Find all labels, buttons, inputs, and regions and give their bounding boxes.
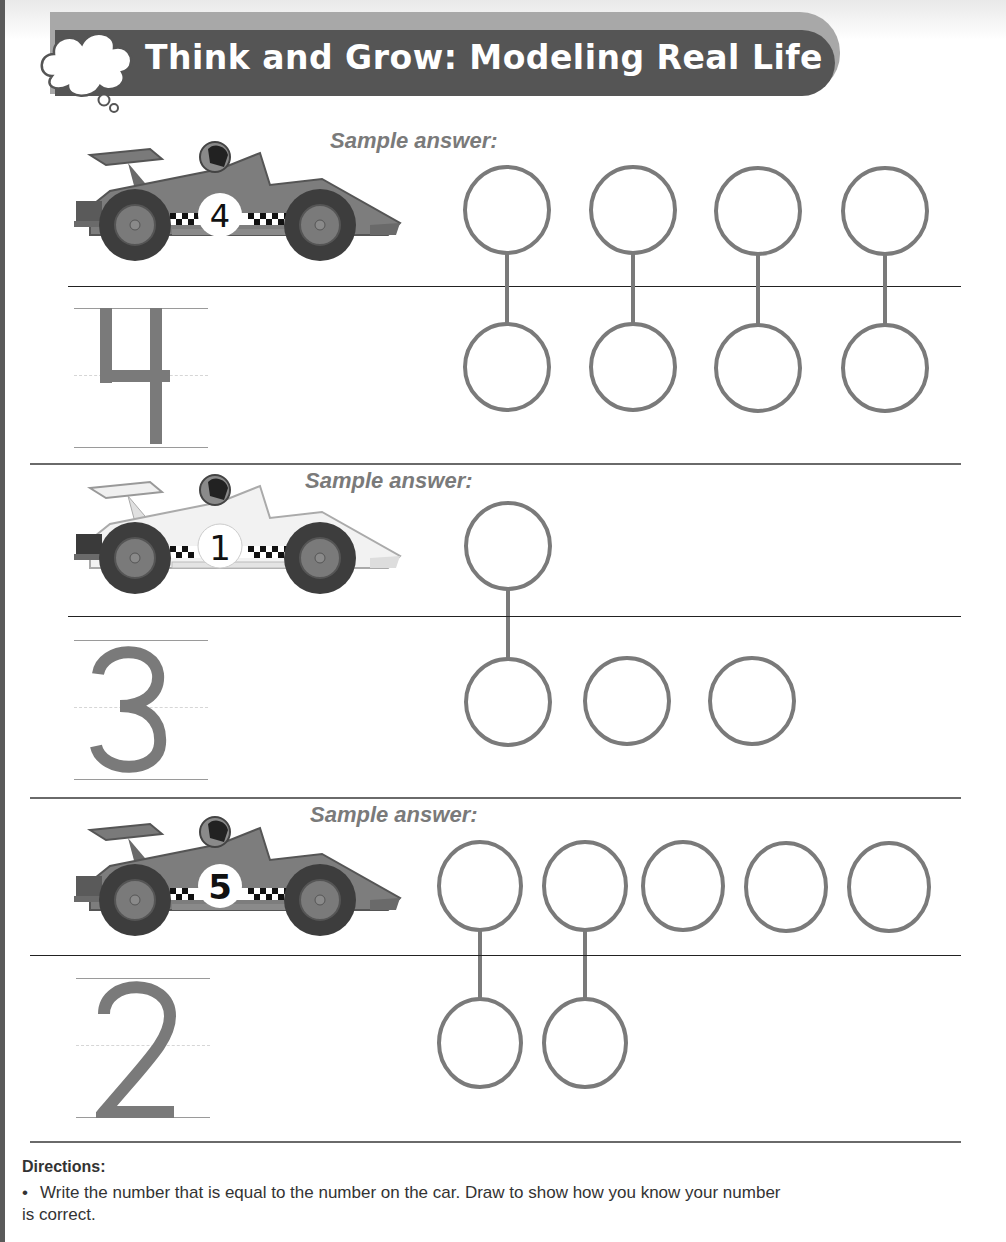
page-title: Think and Grow: Modeling Real Life <box>145 38 823 77</box>
bullet-icon: • <box>22 1182 40 1204</box>
thought-cloud-icon <box>34 24 144 114</box>
answer-divider-line <box>68 616 961 617</box>
directions-item: •Write the number that is equal to the n… <box>22 1182 782 1226</box>
race-car-1-icon: 1 <box>70 468 410 598</box>
directions-text: Write the number that is equal to the nu… <box>22 1183 781 1224</box>
answer-divider-line <box>30 955 961 956</box>
svg-text:1: 1 <box>209 528 231 568</box>
problem-separator <box>30 1141 961 1143</box>
written-digit-4 <box>100 308 180 448</box>
answer-divider-line <box>68 286 961 287</box>
written-digit-2 <box>96 978 196 1118</box>
race-car-5-icon: 5 <box>70 810 410 940</box>
page-edge-bar <box>0 0 5 1242</box>
problem-separator <box>30 797 961 799</box>
directions-heading: Directions: <box>22 1158 106 1176</box>
written-digit-3 <box>88 640 188 780</box>
problem-separator <box>30 463 961 465</box>
race-car-4-icon: 4 <box>70 135 410 265</box>
svg-text:4: 4 <box>210 197 230 235</box>
svg-text:5: 5 <box>208 867 232 907</box>
